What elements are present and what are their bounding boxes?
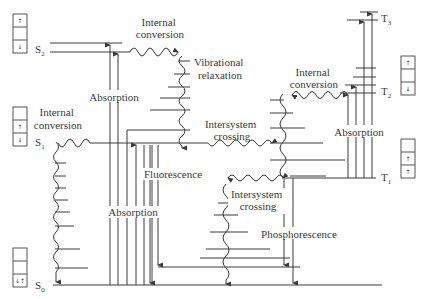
label-absorption-bottom: Absorption <box>108 206 158 218</box>
svg-text:↑: ↑ <box>17 123 22 130</box>
svg-text:↑: ↑ <box>405 59 410 66</box>
label-internal-conversion-t: Internal conversion <box>290 66 339 90</box>
svg-text:↑: ↑ <box>17 17 22 24</box>
label-s2: S2 <box>35 43 45 58</box>
ic-s2-wave <box>130 48 178 56</box>
spin-box-t1: ↑ ↑ <box>401 139 415 178</box>
label-t1: T1 <box>381 171 392 186</box>
label-vibrational-relaxation: Vibrational relaxation <box>194 56 246 81</box>
label-absorption-top: Absorption <box>89 91 139 103</box>
label-s1: S1 <box>35 136 45 151</box>
t-vr-wave <box>280 94 286 178</box>
label-t3: T3 <box>381 12 392 27</box>
svg-text:↓↑: ↓↑ <box>15 277 25 284</box>
spin-box-s2: ↑ ↓ <box>13 14 27 53</box>
jablonski-diagram: ↑ ↓ ↑ ↓ ↓↑ ↑ ↓ ↑ ↑ S2 S1 S0 T3 T2 T1 <box>0 0 428 299</box>
label-intersystem-crossing-1: Intersystem crossing <box>205 118 259 142</box>
vr-wave <box>179 56 185 148</box>
label-internal-conversion-s2: Internal conversion <box>136 16 185 40</box>
spin-box-s1: ↑ ↓ <box>13 107 27 146</box>
svg-text:↑: ↑ <box>405 168 410 175</box>
ic-s1-wave <box>58 139 90 147</box>
label-t2: T2 <box>381 85 392 100</box>
svg-text:↑: ↑ <box>405 155 410 162</box>
svg-text:↓: ↓ <box>405 85 410 92</box>
label-phosphorescence: Phosphorescence <box>261 228 337 240</box>
label-fluorescence: Fluorescence <box>144 168 202 180</box>
triplet-absorption-arrows <box>348 14 372 178</box>
label-absorption-triplet: Absorption <box>334 126 384 138</box>
label-internal-conversion-s1: Internal conversion <box>34 106 83 131</box>
energy-levels <box>50 12 382 285</box>
isc2-wave <box>228 175 284 181</box>
label-s0: S0 <box>35 279 45 294</box>
svg-text:↓: ↓ <box>17 43 22 50</box>
svg-text:↓: ↓ <box>17 136 22 143</box>
spin-box-t2: ↑ ↓ <box>401 56 415 95</box>
spin-box-s0: ↓↑ <box>13 248 27 287</box>
ic-t-wave <box>292 92 348 99</box>
